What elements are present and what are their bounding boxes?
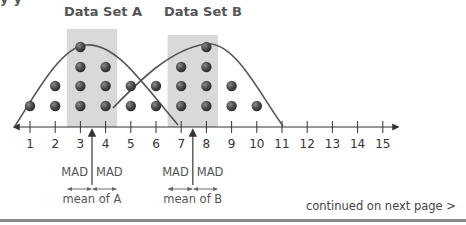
data-point-b — [201, 62, 211, 72]
bottom-divider — [0, 219, 466, 222]
data-point-a — [100, 101, 110, 111]
data-point-b — [201, 101, 211, 111]
tick-label: 11 — [274, 137, 289, 151]
tick-label: 4 — [102, 137, 110, 151]
data-point-b — [226, 81, 236, 91]
tick-label: 10 — [249, 137, 264, 151]
dot-plot: 123456789101112131415MADMADmean of AMADM… — [0, 0, 466, 225]
tick-label: 8 — [203, 137, 211, 151]
tick-label: 5 — [127, 137, 135, 151]
continued-next-page-link[interactable]: continued on next page > — [306, 199, 456, 213]
data-point-b — [226, 101, 236, 111]
mean-b-label: mean of B — [163, 192, 222, 206]
mad-band-a — [67, 29, 117, 127]
tick-label: 13 — [325, 137, 340, 151]
data-point-a — [126, 81, 136, 91]
tick-label: 15 — [375, 137, 390, 151]
mad-right-label-a: MAD — [96, 165, 123, 179]
data-point-b — [201, 81, 211, 91]
data-point-b — [151, 81, 161, 91]
data-point-a — [50, 101, 60, 111]
tick-label: 7 — [177, 137, 185, 151]
data-point-a — [50, 81, 60, 91]
data-point-a — [100, 62, 110, 72]
data-point-a — [75, 81, 85, 91]
data-point-b — [176, 81, 186, 91]
mean-a-label: mean of A — [63, 192, 122, 206]
tick-label: 9 — [228, 137, 236, 151]
mad-left-label-b: MAD — [162, 165, 189, 179]
data-point-a — [25, 101, 35, 111]
data-point-b — [252, 101, 262, 111]
data-point-a — [100, 81, 110, 91]
data-point-b — [201, 42, 211, 52]
tick-label: 14 — [350, 137, 365, 151]
data-point-a — [75, 42, 85, 52]
data-point-b — [176, 62, 186, 72]
data-point-a — [75, 101, 85, 111]
data-point-a — [75, 62, 85, 72]
tick-label: 6 — [152, 137, 160, 151]
tick-label: 2 — [51, 137, 59, 151]
mad-right-label-b: MAD — [197, 165, 224, 179]
mad-left-label-a: MAD — [61, 165, 88, 179]
data-point-a — [126, 101, 136, 111]
data-point-a — [151, 101, 161, 111]
tick-label: 3 — [77, 137, 85, 151]
tick-label: 12 — [300, 137, 315, 151]
data-point-b — [176, 101, 186, 111]
tick-label: 1 — [26, 137, 34, 151]
